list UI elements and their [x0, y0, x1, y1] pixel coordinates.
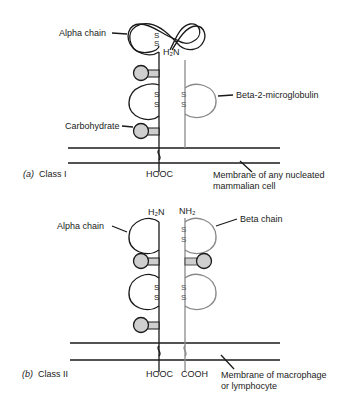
class-i-ss-3b: S: [181, 100, 186, 109]
class-ii-beta-label: Beta chain: [240, 214, 283, 224]
class-ii-alpha-carbohydrate-2: [134, 318, 149, 333]
class-i-membrane-label-1: Membrane of any nucleated: [213, 170, 325, 180]
class-ii-alpha-pointer: [112, 226, 127, 232]
class-i-c-terminus: HOOC: [146, 169, 174, 179]
class-i-n-terminus: H₂N: [163, 47, 180, 57]
mhc-diagram: S S S S H₂N S S Alpha chain Beta-2-micro…: [0, 0, 350, 408]
class-ii-ss-b3: S: [181, 283, 186, 292]
class-i-ss-1b: S: [154, 39, 159, 48]
class-i-ss-3a: S: [181, 90, 186, 99]
class-ii-beta-c-terminus: COOH: [181, 369, 208, 379]
class-ii-panel: S S S S S S H₂N NH₂ HOOC COOH Alpha chai…: [22, 206, 327, 391]
class-ii-ss-b4: S: [181, 293, 186, 302]
class-ii-ss-b1: S: [181, 225, 186, 234]
class-i-alpha-pointer: [112, 33, 127, 34]
class-ii-beta1-domain: [185, 218, 216, 253]
class-ii-alpha2-domain: [129, 274, 159, 309]
class-i-beta2-microglobulin: [185, 84, 216, 117]
class-ii-alpha-carbohydrate-1: [134, 254, 149, 269]
class-i-b2m-pointer: [218, 95, 233, 96]
class-i-carb-pointer: [122, 126, 133, 127]
class-i-b2m-label: Beta-2-microglobulin: [236, 90, 319, 100]
class-ii-panel-label: (b): [22, 369, 33, 379]
class-ii-membrane-label-1: Membrane of macrophage: [221, 370, 327, 380]
class-ii-title: Class II: [38, 369, 68, 379]
class-i-title: Class I: [39, 169, 67, 179]
class-ii-ss-a2: S: [154, 293, 159, 302]
class-ii-alpha-label: Alpha chain: [57, 221, 104, 231]
class-ii-beta-pointer: [216, 219, 237, 226]
class-i-carbohydrate-label: Carbohydrate: [65, 121, 120, 131]
class-ii-beta2-domain: [185, 274, 216, 309]
class-ii-alpha1-domain: [129, 218, 159, 253]
class-i-alpha-label: Alpha chain: [59, 28, 106, 38]
class-ii-beta-carbohydrate: [197, 254, 212, 269]
class-ii-ss-b2: S: [181, 235, 186, 244]
class-i-panel: S S S S H₂N S S Alpha chain Beta-2-micro…: [23, 24, 325, 191]
class-ii-ss-a1: S: [154, 283, 159, 292]
class-ii-beta-n-terminus: NH₂: [179, 206, 196, 216]
class-ii-alpha-c-terminus: HOOC: [146, 369, 174, 379]
class-i-membrane-label-2: mammalian cell: [213, 181, 276, 191]
class-i-panel-label: (a): [23, 169, 34, 179]
class-i-ss-2a: S: [154, 90, 159, 99]
class-ii-alpha-n-terminus: H₂N: [148, 207, 165, 217]
class-i-carbohydrate-2: [134, 124, 149, 139]
class-ii-membrane-pointer: [221, 355, 234, 369]
class-i-carbohydrate-1: [134, 66, 149, 81]
class-i-ss-2b: S: [154, 100, 159, 109]
class-ii-membrane-label-2: or lymphocyte: [221, 381, 277, 391]
